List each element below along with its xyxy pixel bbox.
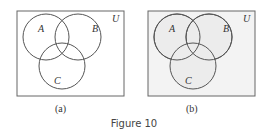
venn-diagram-a: A B C U (a) <box>17 11 124 115</box>
universe-label: U <box>112 13 120 24</box>
panel-label-a: (a) <box>55 103 66 115</box>
set-b-label: B <box>223 23 229 34</box>
panel-label-b: (b) <box>186 103 198 115</box>
set-c-label: C <box>54 75 61 86</box>
venn-figure: A B C U (a) A B C U (b) <box>0 0 268 131</box>
set-c-label: C <box>185 75 192 86</box>
figure-caption: Figure 10 <box>0 118 268 129</box>
universe-rect <box>17 11 124 96</box>
universe-label: U <box>243 13 251 24</box>
set-b-label: B <box>92 23 98 34</box>
venn-diagram-b: A B C U (b) <box>148 11 255 115</box>
set-a-label: A <box>168 23 176 34</box>
set-a-label: A <box>37 23 45 34</box>
set-c-circle <box>170 43 216 89</box>
